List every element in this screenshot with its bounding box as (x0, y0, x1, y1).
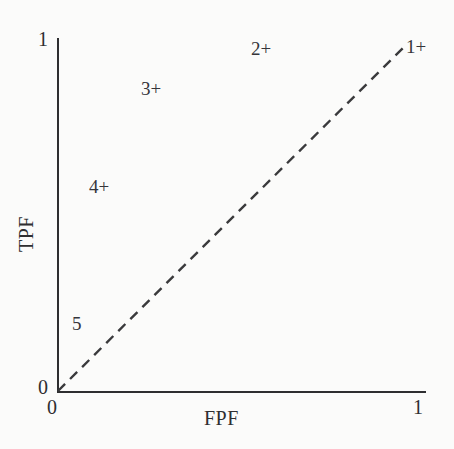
x-axis-title: FPF (204, 407, 239, 429)
roc-chart: 1 0 0 1 TPF FPF 1+ 2+ 3+ 4+ 5 (0, 0, 454, 449)
y-axis-tick-bottom: 0 (38, 377, 48, 397)
x-axis-line (57, 391, 426, 393)
point-label-3plus: 3+ (141, 79, 161, 98)
y-axis-tick-top: 1 (38, 29, 48, 49)
y-axis-line (57, 38, 59, 393)
point-label-2plus: 2+ (251, 39, 271, 58)
point-label-1plus: 1+ (406, 37, 426, 56)
y-axis-title: TPF (15, 201, 37, 267)
x-axis-tick-left: 0 (47, 397, 57, 417)
point-label-5: 5 (72, 314, 82, 333)
x-axis-tick-right: 1 (413, 397, 423, 417)
chance-line (0, 0, 454, 449)
point-label-4plus: 4+ (89, 177, 109, 196)
